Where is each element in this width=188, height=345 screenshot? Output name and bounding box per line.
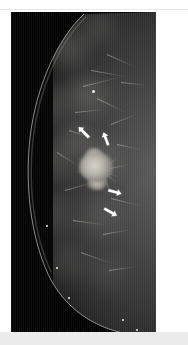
vascular-strand — [121, 82, 147, 86]
spiculated-mass — [79, 152, 113, 182]
punctate-marker — [46, 225, 48, 227]
vascular-strand — [111, 113, 139, 125]
vascular-strand — [107, 54, 135, 67]
tissue-blob — [80, 250, 134, 298]
figure-page — [0, 0, 188, 345]
page-bottom-band — [0, 332, 188, 345]
tissue-blob — [69, 12, 125, 48]
punctate-marker — [92, 90, 95, 93]
tissue-blob — [54, 73, 120, 123]
mammogram-image[interactable] — [11, 12, 156, 332]
page-top-rule — [0, 9, 188, 10]
image-background-void — [11, 12, 53, 332]
punctate-marker — [122, 319, 124, 321]
